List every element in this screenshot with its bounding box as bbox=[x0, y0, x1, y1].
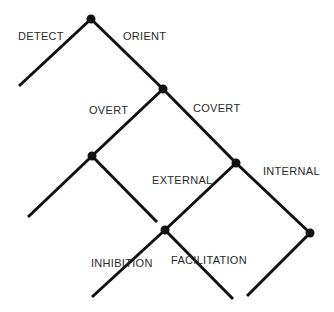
node-covert bbox=[232, 159, 241, 168]
label-facilitation: FACILITATION bbox=[171, 254, 247, 266]
node-internal bbox=[306, 229, 315, 238]
edge-overt-left-leaf bbox=[28, 156, 92, 217]
edge-covert bbox=[163, 89, 236, 163]
label-external: EXTERNAL bbox=[152, 174, 212, 186]
edge-internal-leaf bbox=[247, 233, 310, 296]
label-orient: ORIENT bbox=[123, 30, 166, 42]
edge-overt bbox=[92, 89, 163, 156]
label-overt: OVERT bbox=[89, 104, 128, 116]
edge-overt-right-leaf bbox=[92, 156, 157, 222]
node-orient bbox=[159, 85, 168, 94]
label-detect: DETECT bbox=[18, 30, 64, 42]
attention-tree-diagram: DETECT ORIENT OVERT COVERT EXTERNAL INTE… bbox=[0, 0, 334, 312]
node-overt bbox=[88, 152, 97, 161]
tree-graphic bbox=[0, 0, 334, 312]
label-covert: COVERT bbox=[193, 102, 240, 114]
label-internal: INTERNAL bbox=[263, 165, 320, 177]
node-external bbox=[161, 226, 170, 235]
label-inhibition: INHIBITION bbox=[91, 257, 153, 269]
node-root bbox=[87, 15, 96, 24]
